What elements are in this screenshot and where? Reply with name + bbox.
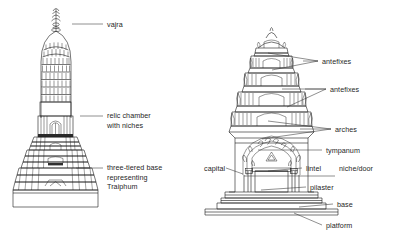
label-vajra-text: vajra bbox=[107, 20, 123, 29]
tier-4-antefixes bbox=[237, 93, 307, 105]
right-base bbox=[217, 192, 326, 209]
pilaster-left bbox=[244, 171, 251, 192]
capital-right bbox=[291, 169, 298, 174]
label-relic-chamber-line1: relic chamber bbox=[107, 111, 151, 120]
right-platform bbox=[205, 209, 338, 215]
label-base: base bbox=[337, 200, 353, 210]
leader-base bbox=[299, 204, 333, 207]
label-platform-text: platform bbox=[326, 221, 352, 230]
label-traiphum: Traiphum bbox=[107, 182, 162, 192]
leader-arches-c bbox=[262, 129, 331, 139]
label-vajra: vajra bbox=[107, 20, 123, 30]
tier-4 bbox=[235, 92, 308, 112]
capital-left bbox=[246, 169, 253, 174]
label-lintel: lintel bbox=[306, 164, 321, 174]
label-relic-chamber-line2: with niches bbox=[107, 121, 151, 131]
label-platform: platform bbox=[326, 221, 352, 231]
left-platform bbox=[13, 190, 98, 207]
label-antefixes-lower-text: antefixes bbox=[330, 85, 359, 94]
diagram-canvas: vajra relic chamber with niches three-ti… bbox=[0, 0, 396, 243]
tier-2-antefixes bbox=[250, 58, 294, 67]
pilaster-right bbox=[292, 171, 299, 192]
tier-1-antefixes bbox=[257, 42, 285, 47]
leader-capital bbox=[226, 168, 243, 174]
plain-band bbox=[40, 102, 71, 116]
label-tympanum: tympanum bbox=[326, 146, 360, 156]
label-antefixes-upper-text: antefixes bbox=[322, 57, 351, 66]
sanctuary-body bbox=[229, 132, 314, 192]
relic-chamber bbox=[38, 116, 73, 137]
leader-antefixes-upper-c bbox=[272, 61, 318, 70]
label-capital: capital bbox=[204, 164, 225, 174]
tier-5-antefixes bbox=[231, 113, 313, 125]
label-pilaster-text: pilaster bbox=[310, 183, 334, 192]
label-pilaster: pilaster bbox=[310, 183, 334, 193]
label-three-tiered-base: three-tiered base representing Traiphum bbox=[107, 163, 162, 192]
label-lintel-text: lintel bbox=[306, 164, 321, 173]
label-capital-text: capital bbox=[204, 164, 225, 173]
label-arches-text: arches bbox=[335, 125, 357, 134]
crown-finial bbox=[266, 28, 277, 39]
tier-3-antefixes bbox=[244, 74, 300, 85]
label-three-tiered-base-line1: three-tiered base bbox=[107, 163, 162, 172]
label-base-text: base bbox=[337, 200, 353, 209]
three-tiered-base bbox=[13, 137, 98, 190]
label-niche-door: niche/door bbox=[339, 164, 373, 174]
label-tympanum-text: tympanum bbox=[326, 146, 360, 155]
niche-door bbox=[255, 171, 288, 192]
label-arches: arches bbox=[335, 125, 357, 135]
label-niche-door-text: niche/door bbox=[339, 164, 373, 173]
left-prang-drawing bbox=[13, 9, 98, 208]
spire-body bbox=[41, 31, 71, 118]
tier-2 bbox=[248, 56, 295, 73]
label-relic-chamber: relic chamber with niches bbox=[107, 111, 151, 130]
vajra-finial bbox=[52, 9, 61, 32]
label-three-tiered-base-line2: representing bbox=[107, 173, 162, 183]
leader-arches-b bbox=[268, 121, 331, 129]
label-antefixes-lower: antefixes bbox=[330, 85, 359, 95]
label-antefixes-upper: antefixes bbox=[322, 57, 351, 67]
